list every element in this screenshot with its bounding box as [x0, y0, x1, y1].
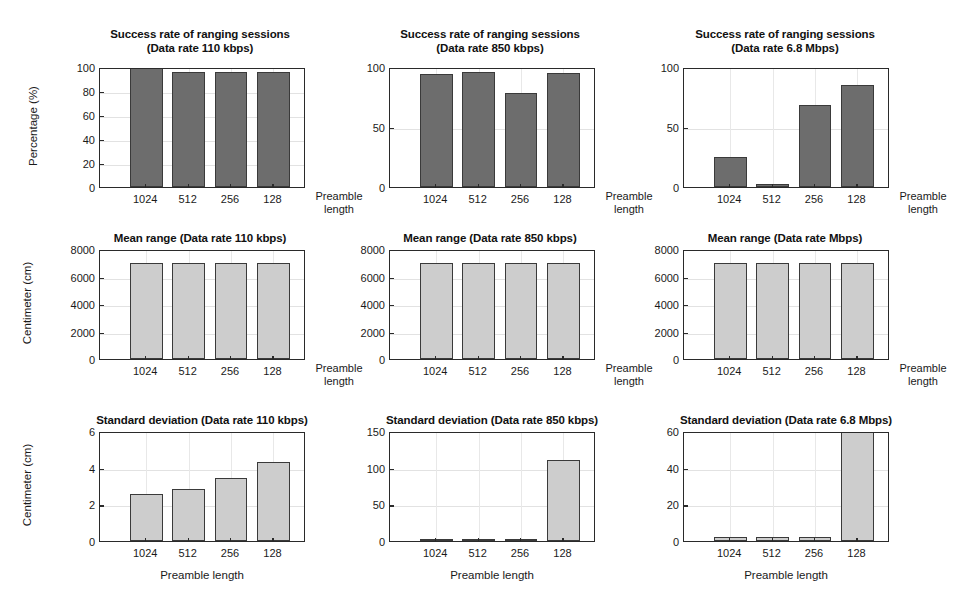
- xtick-label-128: 128: [553, 365, 571, 377]
- gridline-vertical: [273, 433, 274, 541]
- ytick-label: 4000: [343, 300, 385, 311]
- xtick-mark: [562, 538, 563, 542]
- gridline-vertical: [815, 251, 816, 359]
- xtick-label-128: 128: [553, 547, 571, 559]
- xtick-label-1024: 1024: [133, 193, 157, 205]
- gridline-vertical: [563, 433, 564, 541]
- chart-title: Success rate of ranging sessions (Data r…: [645, 28, 925, 55]
- xtick-label-256: 256: [221, 365, 239, 377]
- ytick-mark: [684, 128, 688, 129]
- bar-128: [547, 73, 580, 187]
- xtick-mark: [272, 184, 273, 188]
- xtick-mark: [814, 538, 815, 542]
- ytick-mark: [390, 128, 394, 129]
- gridline-vertical: [773, 251, 774, 359]
- xtick-mark: [145, 184, 146, 188]
- gridline-vertical: [773, 433, 774, 541]
- gridline-vertical: [479, 69, 480, 187]
- x-axis-title: Preamble length: [892, 362, 954, 387]
- ytick-label: 6000: [53, 272, 95, 283]
- xtick-mark: [856, 538, 857, 542]
- xtick-mark: [772, 356, 773, 360]
- bar-256: [799, 263, 832, 359]
- gridline-vertical: [730, 251, 731, 359]
- xtick-mark: [520, 538, 521, 542]
- xtick-mark: [435, 184, 436, 188]
- xtick-mark: [230, 184, 231, 188]
- gridline-vertical: [436, 433, 437, 541]
- gridline-horizontal: [390, 129, 594, 130]
- ytick-label: 8000: [637, 245, 679, 256]
- gridline-horizontal: [100, 93, 304, 94]
- gridline-vertical: [563, 251, 564, 359]
- xtick-mark: [729, 538, 730, 542]
- bar-128: [257, 263, 290, 359]
- xtick-mark: [478, 538, 479, 542]
- chart-panel-std-850kbps: Standard deviation (Data rate 850 kbps)0…: [0, 0, 957, 612]
- bar-512: [172, 263, 205, 359]
- gridline-horizontal: [684, 506, 888, 507]
- ytick-label: 2000: [637, 327, 679, 338]
- gridline-horizontal: [684, 279, 888, 280]
- y-axis-title: Centimeter (cm): [21, 425, 33, 545]
- xtick-label-1024: 1024: [717, 547, 741, 559]
- ytick-label: 0: [637, 537, 679, 548]
- ytick-mark: [100, 92, 104, 93]
- ytick-mark: [100, 505, 104, 506]
- chart-title: Mean range (Data rate 850 kbps): [350, 232, 630, 246]
- xtick-label-128: 128: [263, 365, 281, 377]
- ytick-label: 0: [53, 355, 95, 366]
- chart-title: Success rate of ranging sessions (Data r…: [60, 28, 340, 55]
- ytick-label: 50: [637, 123, 679, 134]
- ytick-label: 100: [637, 63, 679, 74]
- gridline-horizontal: [100, 306, 304, 307]
- chart-panel-mean-range-6800kbps: Mean range (Data rate Mbps)0200040006000…: [0, 0, 957, 612]
- gridline-vertical: [146, 251, 147, 359]
- bar-256: [505, 263, 538, 359]
- xtick-label-1024: 1024: [423, 365, 447, 377]
- bar-1024: [420, 263, 453, 359]
- ytick-mark: [390, 278, 394, 279]
- x-axis-title: Preamble length: [598, 362, 660, 387]
- xtick-label-256: 256: [221, 547, 239, 559]
- plot-area: [389, 250, 595, 360]
- bar-128: [841, 263, 874, 359]
- x-axis-title: Preamble length: [598, 190, 660, 215]
- gridline-vertical: [231, 433, 232, 541]
- plot-area: [99, 68, 305, 188]
- xtick-label-128: 128: [553, 193, 571, 205]
- ytick-label: 150: [343, 427, 385, 438]
- chart-panel-mean-range-850kbps: Mean range (Data rate 850 kbps)020004000…: [0, 0, 957, 612]
- bar-1024: [714, 263, 747, 359]
- xtick-label-512: 512: [762, 547, 780, 559]
- plot-area: [683, 68, 889, 188]
- xtick-label-256: 256: [805, 193, 823, 205]
- gridline-horizontal: [684, 129, 888, 130]
- ytick-label: 20: [53, 159, 95, 170]
- ytick-mark: [684, 333, 688, 334]
- xtick-mark: [729, 356, 730, 360]
- ytick-mark: [100, 278, 104, 279]
- xtick-label-256: 256: [805, 547, 823, 559]
- bar-1024: [130, 494, 163, 541]
- xtick-mark: [272, 356, 273, 360]
- xtick-mark: [188, 184, 189, 188]
- gridline-vertical: [521, 69, 522, 187]
- ytick-label: 2000: [53, 327, 95, 338]
- xtick-mark: [562, 356, 563, 360]
- gridline-vertical: [857, 433, 858, 541]
- ytick-label: 0: [637, 183, 679, 194]
- xtick-mark: [772, 184, 773, 188]
- ytick-mark: [390, 469, 394, 470]
- bar-1024: [714, 157, 747, 187]
- xtick-mark: [145, 356, 146, 360]
- ytick-mark: [390, 333, 394, 334]
- ytick-label: 40: [53, 135, 95, 146]
- x-axis-title: Preamble length: [308, 190, 370, 215]
- xtick-label-1024: 1024: [133, 365, 157, 377]
- bar-128: [547, 263, 580, 359]
- chart-panel-success-850kbps: Success rate of ranging sessions (Data r…: [0, 0, 957, 612]
- ytick-label: 0: [53, 537, 95, 548]
- ytick-label: 0: [53, 183, 95, 194]
- xtick-mark: [145, 538, 146, 542]
